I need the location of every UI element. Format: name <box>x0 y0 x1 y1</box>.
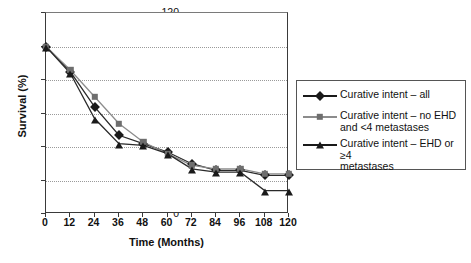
series-line-2 <box>46 47 289 191</box>
legend-entry-ehd: Curative intent – EHD or ≥4 metastases <box>303 138 465 173</box>
data-point-s2-x96 <box>236 170 244 177</box>
plot-area <box>45 12 288 213</box>
x-tickmark-108 <box>264 213 265 217</box>
x-tickmark-120 <box>288 213 289 217</box>
legend-entry-no-ehd: Curative intent – no EHD and <4 metastas… <box>303 110 456 133</box>
legend-label-ehd-line2: metastases <box>340 160 394 172</box>
data-point-s1-x108 <box>261 171 267 177</box>
legend-label-ehd-line1: Curative intent – EHD or ≥4 <box>340 137 454 161</box>
x-tickmark-0 <box>45 213 46 217</box>
legend-marker-diamond <box>303 90 337 102</box>
data-point-s1-x24 <box>91 94 97 100</box>
data-point-s2-x0 <box>42 44 50 51</box>
x-tickmark-24 <box>94 213 95 217</box>
x-tickmark-36 <box>118 213 119 217</box>
data-series-layer <box>46 13 287 212</box>
data-point-s2-x84 <box>212 170 220 177</box>
legend-label-no-ehd: Curative intent – no EHD and <4 metastas… <box>337 110 456 133</box>
x-tickmark-72 <box>191 213 192 217</box>
y-axis-title: Survival (%) <box>16 36 28 176</box>
x-tickmark-84 <box>215 213 216 217</box>
data-point-s2-x24 <box>91 116 99 123</box>
data-point-s2-x108 <box>261 188 269 195</box>
data-point-s2-x120 <box>285 188 293 195</box>
data-point-s2-x12 <box>66 71 74 78</box>
chart-legend: Curative intent – all Curative intent – … <box>296 80 466 170</box>
x-tickmark-96 <box>239 213 240 217</box>
legend-label-no-ehd-line2: and <4 metastases <box>340 121 429 133</box>
legend-marker-triangle <box>303 139 337 151</box>
series-lines <box>46 13 289 214</box>
x-axis-title: Time (Months) <box>45 236 288 248</box>
x-tickmark-60 <box>167 213 168 217</box>
data-point-s2-x72 <box>188 166 196 173</box>
legend-entry-curative-all: Curative intent – all <box>303 89 430 102</box>
data-point-s1-x120 <box>286 171 292 177</box>
legend-marker-square <box>303 111 337 123</box>
x-tickmark-12 <box>69 213 70 217</box>
legend-label-no-ehd-line1: Curative intent – no EHD <box>340 109 456 121</box>
x-tickmark-48 <box>142 213 143 217</box>
data-point-s1-x36 <box>116 120 122 126</box>
data-point-s2-x60 <box>164 151 172 158</box>
legend-label-curative-all: Curative intent – all <box>337 89 430 101</box>
data-point-s2-x48 <box>139 143 147 150</box>
survival-chart-figure: 020406080100120 Survival (%) 01224364860… <box>0 0 471 263</box>
data-point-s2-x36 <box>115 141 123 148</box>
legend-label-ehd: Curative intent – EHD or ≥4 metastases <box>337 138 465 173</box>
x-tick-120: 120 <box>268 216 308 228</box>
